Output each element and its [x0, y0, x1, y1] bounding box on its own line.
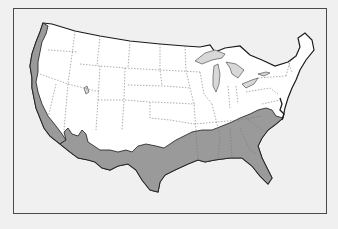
us-map [0, 0, 338, 229]
